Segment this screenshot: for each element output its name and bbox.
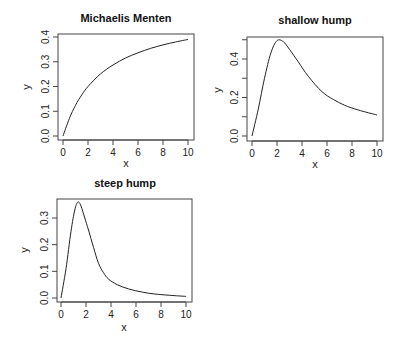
y-tick-label: 0.3 — [40, 54, 51, 68]
y-tick-label: 0.2 — [40, 79, 51, 93]
chart-title: steep hump — [94, 177, 156, 189]
x-tick-label: 2 — [274, 148, 280, 159]
y-tick-label: 0.0 — [229, 129, 240, 143]
x-tick-label: 6 — [324, 148, 330, 159]
plot-michaelis-menten: Michaelis Menten02468100.00.10.20.30.4xy — [20, 12, 194, 169]
y-tick-label: 0.2 — [229, 90, 240, 104]
x-tick-label: 2 — [85, 147, 91, 158]
x-tick-label: 0 — [58, 309, 64, 320]
y-tick-label: 0.2 — [39, 237, 50, 251]
x-tick-label: 6 — [135, 147, 141, 158]
x-tick-label: 8 — [160, 147, 166, 158]
x-tick-label: 10 — [182, 147, 194, 158]
x-tick-label: 8 — [158, 309, 164, 320]
plot-frame — [247, 37, 383, 141]
x-axis-label: x — [312, 158, 318, 170]
chart-title: Michaelis Menten — [80, 12, 171, 24]
plot-frame — [57, 199, 192, 302]
y-tick-label: 0.1 — [40, 104, 51, 118]
x-tick-label: 4 — [108, 309, 114, 320]
x-tick-label: 4 — [110, 147, 116, 158]
chart-title: shallow hump — [278, 14, 352, 26]
x-tick-label: 10 — [371, 148, 383, 159]
y-tick-label: 0.1 — [39, 264, 50, 278]
plot-canvas: Michaelis Menten02468100.00.10.20.30.4xy… — [0, 0, 403, 349]
y-axis-label: y — [211, 87, 223, 93]
data-curve — [61, 202, 186, 298]
y-tick-label: 0.0 — [40, 129, 51, 143]
x-tick-label: 6 — [133, 309, 139, 320]
x-tick-label: 4 — [299, 148, 305, 159]
y-axis-label: y — [20, 84, 32, 90]
x-tick-label: 8 — [349, 148, 355, 159]
x-tick-label: 0 — [249, 148, 255, 159]
y-tick-label: 0.4 — [229, 52, 240, 66]
y-tick-label: 0.4 — [40, 30, 51, 44]
x-axis-label: x — [121, 321, 127, 333]
x-axis-label: x — [123, 157, 129, 169]
plot-steep-hump: steep hump02468100.00.10.20.3xy — [18, 177, 192, 333]
data-curve — [63, 40, 188, 137]
y-tick-label: 0.3 — [39, 211, 50, 225]
x-tick-label: 2 — [83, 309, 89, 320]
plot-shallow-hump: shallow hump02468100.00.20.4xy — [211, 14, 383, 170]
plot-frame — [58, 34, 194, 140]
data-curve — [252, 40, 377, 136]
y-tick-label: 0.0 — [39, 291, 50, 305]
y-axis-label: y — [18, 247, 30, 253]
x-tick-label: 0 — [60, 147, 66, 158]
x-tick-label: 10 — [180, 309, 192, 320]
